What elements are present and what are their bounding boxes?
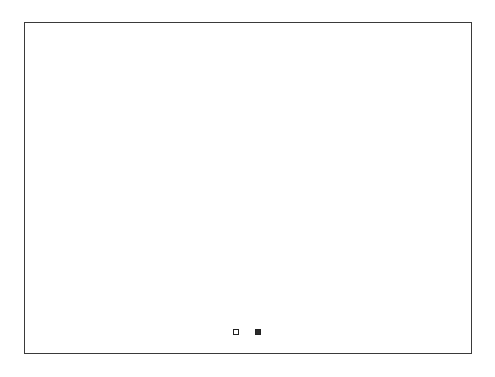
plot-area <box>0 0 495 377</box>
legend-item-edmonton[interactable] <box>255 327 263 336</box>
edmonton-swatch-icon <box>255 329 261 335</box>
chart-svg <box>0 0 495 377</box>
chart-legend <box>0 326 495 336</box>
toronto-swatch-icon <box>233 329 239 335</box>
legend-item-toronto[interactable] <box>233 327 241 336</box>
